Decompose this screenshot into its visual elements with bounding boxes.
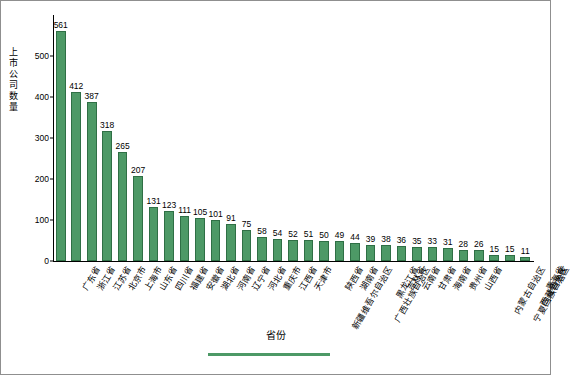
bar-item: 131 <box>149 15 159 261</box>
bar <box>412 247 422 261</box>
x-axis-title: 省份 <box>1 327 550 342</box>
bar-item: 36 <box>397 15 407 261</box>
bar-value-label: 26 <box>474 239 483 249</box>
bar-item: 387 <box>87 15 97 261</box>
bar-value-label: 318 <box>100 120 114 130</box>
bar-value-label: 91 <box>226 213 235 223</box>
bar <box>428 247 438 261</box>
bar <box>257 237 267 261</box>
bar-item: 265 <box>118 15 128 261</box>
bar-item: 50 <box>319 15 329 261</box>
bar-value-label: 51 <box>304 229 313 239</box>
bar-item: 561 <box>56 15 66 261</box>
bar <box>242 230 252 261</box>
y-tick-mark <box>50 97 53 98</box>
bar <box>273 239 283 261</box>
bar <box>56 31 66 261</box>
bar <box>319 241 329 262</box>
bar-item: 49 <box>335 15 345 261</box>
bar-series: 5614123873182652071311231111051019175585… <box>53 15 533 261</box>
bar <box>350 243 360 261</box>
bar-value-label: 54 <box>273 228 282 238</box>
bar-value-label: 15 <box>490 244 499 254</box>
bar-value-label: 75 <box>242 219 251 229</box>
bar-value-label: 50 <box>319 230 328 240</box>
bar-item: 39 <box>366 15 376 261</box>
bar <box>118 152 128 261</box>
bar <box>164 211 174 261</box>
legend-color-bar <box>208 353 330 356</box>
bar-value-label: 123 <box>162 200 176 210</box>
bar-value-label: 412 <box>69 81 83 91</box>
y-axis-title: 上市公司数量 <box>7 47 19 113</box>
bar-value-label: 39 <box>366 234 375 244</box>
bar-value-label: 36 <box>397 235 406 245</box>
bar-item: 35 <box>412 15 422 261</box>
bar-item: 111 <box>180 15 190 261</box>
bar <box>180 216 190 262</box>
bar-value-label: 31 <box>443 237 452 247</box>
bar-item: 15 <box>505 15 515 261</box>
bar-item: 33 <box>428 15 438 261</box>
x-axis-line <box>53 261 534 262</box>
bar-item: 52 <box>288 15 298 261</box>
bar <box>489 255 499 261</box>
bar-item: 75 <box>242 15 252 261</box>
bar <box>149 207 159 261</box>
bar <box>335 241 345 261</box>
bar-value-label: 44 <box>350 232 359 242</box>
bar <box>133 176 143 261</box>
bar-item: 26 <box>474 15 484 261</box>
y-tick-mark <box>50 179 53 180</box>
plot-area: 5614123873182652071311231111051019175585… <box>53 15 533 261</box>
bar-value-label: 207 <box>131 165 145 175</box>
bar-value-label: 49 <box>335 230 344 240</box>
bar-item: 31 <box>443 15 453 261</box>
bar <box>366 245 376 261</box>
bar <box>87 102 97 261</box>
bar <box>397 246 407 261</box>
bar-item: 105 <box>195 15 205 261</box>
bar-item: 28 <box>459 15 469 261</box>
bar-value-label: 265 <box>116 141 130 151</box>
bar <box>381 245 391 261</box>
bar <box>520 257 530 262</box>
bar-value-label: 111 <box>178 205 191 215</box>
bar-item: 91 <box>226 15 236 261</box>
bar <box>459 250 469 261</box>
bar <box>304 240 314 261</box>
bar-value-label: 11 <box>521 246 530 256</box>
bar-value-label: 58 <box>257 226 266 236</box>
bar-item: 11 <box>520 15 530 261</box>
bar-value-label: 105 <box>193 207 207 217</box>
bar-item: 38 <box>381 15 391 261</box>
bar <box>71 92 81 261</box>
bar <box>288 240 298 261</box>
y-tick-mark <box>50 261 53 262</box>
bar <box>226 224 236 261</box>
bar <box>505 255 515 261</box>
bar-value-label: 131 <box>147 196 161 206</box>
bar <box>102 131 112 261</box>
bar-value-label: 387 <box>85 91 99 101</box>
bar-value-label: 38 <box>381 234 390 244</box>
y-tick-mark <box>50 138 53 139</box>
bar-item: 51 <box>304 15 314 261</box>
bar <box>211 220 221 261</box>
bar <box>474 250 484 261</box>
bar-item: 101 <box>211 15 221 261</box>
bar-value-label: 28 <box>459 239 468 249</box>
bar <box>443 248 453 261</box>
bar-item: 318 <box>102 15 112 261</box>
bar-item: 207 <box>133 15 143 261</box>
bar-value-label: 35 <box>412 236 421 246</box>
bar-value-label: 33 <box>428 236 437 246</box>
y-tick-mark <box>50 220 53 221</box>
bar-item: 54 <box>273 15 283 261</box>
bar-value-label: 561 <box>54 20 68 30</box>
bar <box>195 218 205 261</box>
bar-item: 58 <box>257 15 267 261</box>
y-tick-mark <box>50 56 53 57</box>
bar-item: 123 <box>164 15 174 261</box>
